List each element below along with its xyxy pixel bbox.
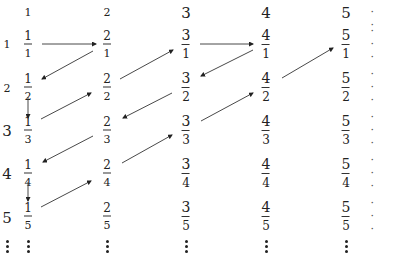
arrow-1-5-to-2-4 — [41, 181, 91, 207]
arrow-2-1-to-1-2 — [42, 51, 93, 79]
arrow-2-3-to-1-4 — [43, 136, 93, 162]
arrow-3-3-to-4-2 — [201, 93, 253, 121]
arrow-4-1-to-3-2 — [201, 50, 253, 76]
arrow-2-4-to-3-3 — [122, 135, 172, 163]
arrow-4-2-to-5-1 — [282, 48, 333, 78]
arrow-3-2-to-2-3 — [123, 93, 172, 118]
enumeration-path — [0, 0, 393, 260]
arrow-2-2-to-3-1 — [120, 50, 173, 79]
arrow-1-3-to-2-2 — [41, 93, 91, 119]
